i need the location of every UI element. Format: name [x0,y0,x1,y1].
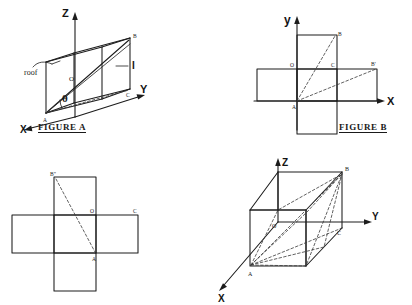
figure-d-origin-label: O [272,223,277,229]
figure-d-point-c-label: C [337,230,341,236]
figure-a-roof-label: roof [24,68,38,77]
figure-a-y-axis [75,94,145,117]
figure-a-angle-label: θ [62,92,68,104]
figure-c-net [12,177,138,291]
figure-a-z-axis [72,12,78,117]
figure-d-geodesics [251,174,342,266]
figure-d-y-label: Y [372,211,379,222]
figure-c-point-b-double-prime-label: B" [50,171,56,177]
figure-b-panel: y X O A B C B' FIGURE B [206,0,412,140]
figure-d-x-axis [219,222,278,291]
figure-c-panel: B" O C A FIGURE C [0,155,206,305]
figure-d-point-a-label: A [248,271,253,277]
figure-a-current-label: I [132,60,135,71]
figure-a-origin-label: O [69,75,74,83]
figure-b-point-b-label: B [338,31,342,37]
figure-a-x-label: X [20,124,27,135]
figure-b-point-b-prime-label: B' [371,61,376,67]
figure-b-caption: FIGURE B [339,122,387,133]
figure-c-origin-label: O [90,208,94,214]
figure-d-z-label: Z [282,157,288,168]
figure-a-drawing: Z Y X roof I θ O A B C [0,0,206,140]
figure-b-x-label: X [387,95,395,107]
figure-a-caption: FIGURE A [38,122,86,133]
figure-sheet: Z Y X roof I θ O A B C FIGURE A [0,0,412,305]
figure-b-drawing: y X O A B C B' [206,0,412,140]
figure-a-point-c-label: C [126,92,130,98]
figure-b-origin-label: O [290,62,294,68]
figure-d-x-label: X [218,293,225,304]
figure-a-point-b-label: B [133,33,137,39]
figure-a-y-label: Y [140,83,148,95]
figure-b-net [257,35,377,134]
figure-b-y-label: y [284,13,291,27]
figure-c-point-c-label: C [133,208,137,214]
figure-d-drawing: Z Y X O A B C [206,150,412,305]
figure-b-point-a-label: A [292,104,296,110]
figure-d-cube [250,172,342,266]
figure-d-panel: Z Y X O A B C FIGURE D [206,150,412,305]
figure-d-point-b-label: B [345,166,349,172]
figure-a-panel: Z Y X roof I θ O A B C FIGURE A [0,0,206,140]
figure-a-z-label: Z [62,7,69,19]
figure-c-point-a-label: A [92,256,96,262]
figure-b-point-c-label: C [331,62,335,68]
figure-c-drawing: B" O C A [0,155,206,305]
